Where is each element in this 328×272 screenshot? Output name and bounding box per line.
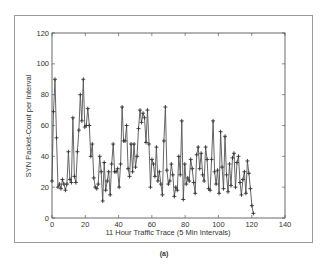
data-point-marker [54,136,58,140]
data-point-marker [233,185,237,189]
data-point-marker [247,171,251,175]
data-point-marker [160,193,164,197]
data-point-marker [154,145,158,149]
data-point-marker [251,211,255,215]
data-point-marker [148,185,152,189]
data-point-marker [89,154,93,158]
data-point-marker [214,182,218,186]
data-point-marker [162,139,166,143]
data-point-marker [77,128,81,132]
x-tick-label: 20 [81,220,89,229]
data-point-marker [138,108,142,112]
data-point-marker [177,154,181,158]
data-point-marker [236,154,240,158]
figure-caption: (a) [0,250,328,257]
y-tick-label: 20 [41,183,49,192]
data-point-marker [111,142,115,146]
data-point-marker [181,198,185,202]
y-tick-label: 0 [45,214,49,223]
data-point-marker [134,165,138,169]
data-point-marker [210,157,214,161]
data-point-marker [98,154,102,158]
axes: 020406080100120140020406080100120 [36,29,291,230]
data-point-marker [132,142,136,146]
data-point-marker [202,179,206,183]
data-point-marker [222,187,226,191]
data-point-marker [150,157,154,161]
data-point-marker [199,151,203,155]
y-tick-label: 60 [41,121,49,130]
data-point-marker [232,151,236,155]
x-tick-label: 0 [50,220,54,229]
data-point-marker [128,174,132,178]
data-point-marker [87,124,91,128]
x-axis-label: 11 Hour Traffic Trace (5 Min Intervals) [105,228,231,237]
data-point-marker [92,176,96,180]
data-point-marker [165,168,169,172]
data-point-marker [156,179,160,183]
data-point-marker [101,199,105,203]
data-point-marker [198,167,202,171]
data-point-marker [105,179,109,183]
data-point-marker [195,153,199,157]
data-point-marker [244,191,248,195]
data-point-marker [63,188,67,192]
data-point-marker [65,182,69,186]
data-point-marker [183,162,187,166]
data-point-marker [66,150,70,154]
data-point-marker [99,170,103,174]
data-point-marker [242,170,246,174]
data-point-marker [131,170,135,174]
data-point-marker [250,204,254,208]
data-point-marker [140,120,144,124]
data-point-marker [78,93,82,97]
data-point-marker [80,119,84,123]
y-tick-label: 100 [36,59,49,68]
y-tick-label: 80 [41,90,49,99]
data-point-marker [75,150,79,154]
data-point-marker [125,124,129,128]
data-point-marker [153,174,157,178]
x-tick-label: 140 [279,220,292,229]
data-series-line [52,79,253,213]
data-point-marker [189,157,193,161]
data-point-marker [248,187,252,191]
data-point-marker [90,142,94,146]
y-axis-label: SYN Packet-Count per Interval [24,74,33,177]
data-point-marker [226,190,230,194]
data-point-marker [223,134,227,138]
data-point-marker [220,165,224,169]
data-point-marker [119,162,123,166]
data-point-marker [217,191,221,195]
data-point-marker [171,173,175,177]
data-point-marker [96,182,100,186]
data-point-marker [120,105,124,109]
data-point-marker [190,167,194,171]
data-point-marker [239,193,243,197]
data-point-marker [196,145,200,149]
data-point-marker [108,193,112,197]
data-point-marker [184,182,188,186]
data-point-marker [53,77,57,81]
data-point-marker [219,130,223,134]
data-point-marker [74,181,78,185]
data-point-marker [117,185,121,189]
data-point-marker [229,184,233,188]
y-tick-label: 120 [36,29,49,38]
data-point-marker [60,177,64,181]
data-point-marker [163,105,167,109]
data-point-marker [86,107,90,111]
data-point-marker [110,162,114,166]
data-point-marker [228,162,232,166]
data-point-marker [193,191,197,195]
data-point-marker [141,111,145,115]
data-point-marker [104,188,108,192]
data-point-marker [245,159,249,163]
data-point-marker [205,157,209,161]
data-point-marker [238,181,242,185]
data-point-marker [211,119,215,123]
data-point-marker [172,194,176,198]
data-point-marker [145,108,149,112]
plot-area [50,77,255,215]
data-point-marker [192,181,196,185]
